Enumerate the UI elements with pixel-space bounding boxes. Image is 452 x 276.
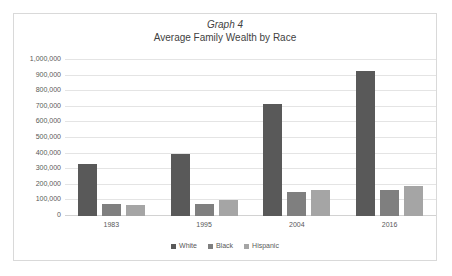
legend-swatch-icon — [244, 244, 249, 249]
bar-black-2004 — [287, 192, 306, 216]
legend-item-hispanic[interactable]: Hispanic — [244, 242, 279, 250]
bar-black-1995 — [195, 204, 214, 216]
legend-item-white[interactable]: White — [171, 242, 197, 250]
bar-hispanic-1995 — [219, 200, 238, 216]
bar-hispanic-2004 — [311, 190, 330, 216]
bar-white-2004 — [263, 104, 282, 216]
y-axis-tick-label: 1,000,000 — [30, 55, 61, 63]
x-axis-tick-label: 1983 — [65, 221, 158, 229]
legend-label: White — [179, 242, 197, 250]
bar-group: 2016 — [343, 60, 436, 216]
y-axis-tick-label: 700,000 — [36, 102, 61, 110]
bar-group: 2004 — [251, 60, 344, 216]
y-axis-tick-label: 600,000 — [36, 117, 61, 125]
y-axis-tick-label: 400,000 — [36, 149, 61, 157]
bar-group: 1995 — [158, 60, 251, 216]
legend-swatch-icon — [171, 244, 176, 249]
y-axis-tick-label: 100,000 — [36, 195, 61, 203]
bar-white-2016 — [356, 71, 375, 216]
bar-hispanic-2016 — [404, 186, 423, 216]
bars-layer: 1983199520042016 — [65, 60, 436, 216]
x-axis-tick-label: 2004 — [251, 221, 344, 229]
plot-area: 0100,000200,000300,000400,000500,000600,… — [65, 60, 436, 216]
y-axis-tick-label: 300,000 — [36, 164, 61, 172]
chart-legend: WhiteBlackHispanic — [14, 242, 436, 250]
y-axis-tick-label: 900,000 — [36, 71, 61, 79]
y-axis-tick-label: 200,000 — [36, 180, 61, 188]
bar-black-1983 — [102, 204, 121, 216]
bar-group: 1983 — [65, 60, 158, 216]
legend-label: Hispanic — [252, 242, 279, 250]
bar-black-2016 — [380, 190, 399, 216]
y-axis-tick-label: 0 — [57, 211, 61, 219]
x-axis-tick-label: 1995 — [158, 221, 251, 229]
y-axis-tick-label: 500,000 — [36, 133, 61, 141]
legend-swatch-icon — [208, 244, 213, 249]
plot-wrapper: 0100,000200,000300,000400,000500,000600,… — [14, 14, 436, 260]
legend-item-black[interactable]: Black — [208, 242, 233, 250]
x-axis-tick-label: 2016 — [343, 221, 436, 229]
y-axis-tick-label: 800,000 — [36, 86, 61, 94]
chart-frame: Graph 4 Average Family Wealth by Race 01… — [13, 13, 437, 261]
bar-hispanic-1983 — [126, 205, 145, 216]
bar-white-1995 — [171, 154, 190, 216]
legend-label: Black — [216, 242, 233, 250]
bar-white-1983 — [78, 164, 97, 216]
